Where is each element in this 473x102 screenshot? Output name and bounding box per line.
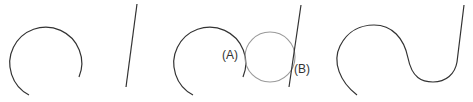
tangent-circle (245, 32, 295, 82)
panel-result (337, 5, 464, 95)
label-b: (B) (294, 63, 310, 75)
panel-original (10, 4, 137, 95)
arc-1 (10, 27, 82, 95)
blended-curve (337, 5, 464, 95)
label-a: (A) (222, 49, 238, 61)
line-1 (126, 4, 137, 87)
